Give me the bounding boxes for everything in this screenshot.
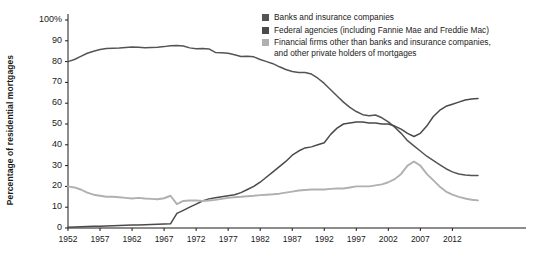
legend-swatch-federal-agencies xyxy=(262,27,269,34)
x-tick-label: 2012 xyxy=(443,234,462,244)
y-tick-label: 30 xyxy=(52,161,62,170)
legend-label-financial-firms: Financial firms other than banks and ins… xyxy=(274,37,491,58)
legend-label-banks: Banks and insurance companies xyxy=(274,12,394,23)
y-tick-label: 100% xyxy=(39,15,62,24)
y-tick-label: 70 xyxy=(52,77,62,86)
chart-legend: Banks and insurance companies Federal ag… xyxy=(262,12,544,60)
series-line-0 xyxy=(68,45,478,175)
y-tick-label: 40 xyxy=(52,140,62,149)
x-tick-label: 1987 xyxy=(283,234,302,244)
y-tick-label: 90 xyxy=(52,36,62,45)
y-tick-label: 50 xyxy=(52,119,62,128)
y-tick-label: 60 xyxy=(52,98,62,107)
legend-swatch-banks xyxy=(262,14,269,21)
x-tick-label: 1962 xyxy=(123,234,142,244)
x-tick-label: 1952 xyxy=(59,234,78,244)
series-line-2 xyxy=(68,161,478,204)
y-tick-label: 20 xyxy=(52,181,62,190)
legend-swatch-financial-firms xyxy=(262,39,269,46)
legend-item-financial-firms: Financial firms other than banks and ins… xyxy=(262,37,544,58)
x-tick-label: 1992 xyxy=(315,234,334,244)
x-tick-label: 1982 xyxy=(251,234,270,244)
x-tick-label: 1997 xyxy=(347,234,366,244)
legend-label-federal-agencies: Federal agencies (including Fannie Mae a… xyxy=(274,25,489,36)
y-axis-title: Percentage of residential mortgages xyxy=(2,0,18,260)
y-tick-label: 10 xyxy=(52,202,62,211)
y-tick-label: 0 xyxy=(57,223,62,232)
x-tick-label: 2007 xyxy=(411,234,430,244)
x-tick-label: 1957 xyxy=(91,234,110,244)
x-tick-label: 1967 xyxy=(155,234,174,244)
x-tick-label: 1972 xyxy=(187,234,206,244)
x-tick-label: 2002 xyxy=(379,234,398,244)
legend-item-banks: Banks and insurance companies xyxy=(262,12,544,23)
mortgage-holders-chart: Percentage of residential mortgages 0102… xyxy=(0,0,544,260)
y-axis-tick-labels: 0102030405060708090100% xyxy=(18,0,62,260)
legend-item-federal-agencies: Federal agencies (including Fannie Mae a… xyxy=(262,25,544,36)
x-tick-label: 1977 xyxy=(219,234,238,244)
y-tick-label: 80 xyxy=(52,57,62,66)
